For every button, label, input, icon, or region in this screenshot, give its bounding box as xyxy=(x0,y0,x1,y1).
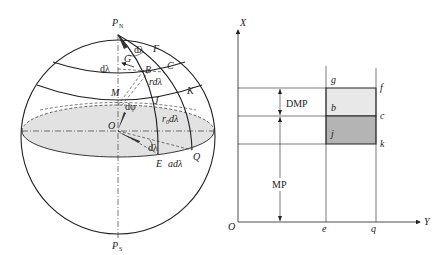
label-B: B xyxy=(145,64,151,75)
sphere-diagram: P N P S F dλ G dλ B C rdλ K M J dφ r0dλ … xyxy=(21,17,215,252)
label-M: M xyxy=(110,87,120,98)
label-south-pole: P xyxy=(111,240,118,251)
label-d-lambda-top: dλ xyxy=(134,44,144,55)
label-d-lambda-bottom: dλ xyxy=(148,142,158,153)
tick-e: e xyxy=(322,223,327,234)
label-F: F xyxy=(152,43,160,54)
dmp-arrow-top xyxy=(278,89,282,94)
mp-arrow-bottom xyxy=(278,216,282,221)
label-C: C xyxy=(167,60,174,71)
label-d-lambda-left: dλ xyxy=(100,63,110,74)
dmp-arrow-bottom xyxy=(278,110,282,115)
label-a-d-lambda: adλ xyxy=(168,158,183,169)
label-north-pole: P xyxy=(111,17,118,28)
tick-q: q xyxy=(371,223,376,234)
label-O: O xyxy=(108,120,115,131)
corner-g: g xyxy=(331,74,336,85)
y-axis-label: Y xyxy=(424,216,431,227)
label-Q: Q xyxy=(193,151,201,162)
x-axis-label: X xyxy=(239,17,247,28)
dmp-label: DMP xyxy=(286,98,308,109)
origin-label: O xyxy=(228,221,235,232)
figure-canvas: P N P S F dλ G dλ B C rdλ K M J dφ r0dλ … xyxy=(0,0,447,255)
label-r-d-lambda: rdλ xyxy=(149,76,163,87)
label-d-phi: dφ xyxy=(125,101,136,112)
label-G: G xyxy=(124,53,131,64)
corner-b: b xyxy=(331,102,336,113)
pole-wedge xyxy=(118,35,128,49)
corner-c: c xyxy=(380,110,385,121)
label-north-pole-sub: N xyxy=(119,23,124,29)
projection-chart: X Y O e q g f b c j k DMP MP xyxy=(228,17,431,234)
label-J: J xyxy=(154,95,159,106)
mp-arrow-top xyxy=(278,117,282,122)
label-south-pole-sub: S xyxy=(119,246,122,252)
latitude-arc-upper xyxy=(53,62,185,73)
corner-k: k xyxy=(380,138,385,149)
corner-f: f xyxy=(380,82,384,93)
label-K: K xyxy=(186,85,195,96)
label-E: E xyxy=(155,158,162,169)
label-r0-d-lambda: r0dλ xyxy=(162,113,179,125)
mp-label: MP xyxy=(272,179,287,190)
